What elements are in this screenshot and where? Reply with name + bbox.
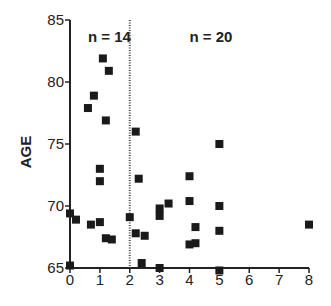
data-point [135,175,143,183]
y-tick-label: 80 [47,73,64,90]
data-point [186,197,194,205]
data-point [96,177,104,185]
data-point [105,67,113,75]
y-tick-label: 85 [47,11,64,28]
y-axis-label: AGE [17,136,34,169]
data-point [84,104,92,112]
data-point [215,202,223,210]
data-point [165,200,173,208]
annotations: n = 14n = 20 [88,28,233,45]
x-tick-label: 0 [66,271,74,288]
data-point [99,54,107,62]
data-point [72,216,80,224]
data-points [66,54,313,274]
x-tick-label: 2 [126,271,134,288]
y-tick-label: 75 [47,135,64,152]
data-point [156,264,164,272]
data-point [87,221,95,229]
data-point [126,213,134,221]
data-point [215,140,223,148]
n-annotation: n = 20 [190,28,233,45]
data-point [96,218,104,226]
data-point [156,204,164,212]
data-point [102,116,110,124]
data-point [138,259,146,267]
data-point [156,212,164,220]
data-point [305,221,313,229]
y-tick-label: 65 [47,259,64,276]
data-point [186,172,194,180]
x-tick-label: 8 [305,271,313,288]
data-point [186,240,194,248]
x-tick-label: 7 [275,271,283,288]
data-point [191,223,199,231]
x-tick-label: 6 [245,271,253,288]
data-point [132,128,140,136]
data-point [108,235,116,243]
scatter-chart: 6570758085012345678AGE n = 14n = 20 [0,0,331,306]
data-point [90,92,98,100]
data-point [141,232,149,240]
x-tick-label: 3 [155,271,163,288]
chart-svg: 6570758085012345678AGE n = 14n = 20 [0,0,331,306]
data-point [215,227,223,235]
n-annotation: n = 14 [88,28,132,45]
x-tick-label: 1 [96,271,104,288]
y-tick-label: 70 [47,197,64,214]
x-tick-label: 4 [185,271,193,288]
data-point [66,262,74,270]
data-point [132,229,140,237]
data-point [96,165,104,173]
axes: 6570758085012345678AGE [17,11,313,288]
data-point [215,266,223,274]
